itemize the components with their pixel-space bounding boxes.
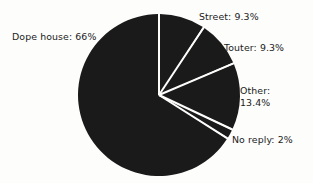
pie-label-no-reply: No reply: 2% [232, 134, 293, 146]
pie-chart: Dope house: 66% Street: 9.3% Touter: 9.3… [0, 0, 313, 183]
pie-label-dope-house: Dope house: 66% [12, 31, 96, 43]
pie-label-touter: Touter: 9.3% [224, 42, 284, 54]
pie-label-other-line1: Other: [240, 85, 270, 96]
pie-label-other: Other:13.4% [240, 85, 270, 108]
pie-label-other-line2: 13.4% [240, 97, 270, 108]
pie-label-street: Street: 9.3% [199, 11, 259, 23]
